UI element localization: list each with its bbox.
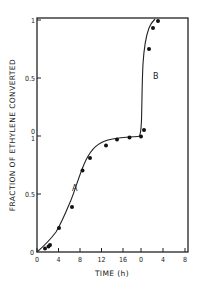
x-tick-label: 16 bbox=[119, 256, 127, 264]
x-tick-label: 8 bbox=[78, 256, 82, 264]
data-point bbox=[104, 144, 108, 148]
y-tick-label: 1 bbox=[31, 135, 35, 143]
data-point bbox=[81, 169, 85, 173]
y-tick-labels: 0 0.5 0 1 0.5 1 bbox=[25, 17, 35, 257]
y-tick-label: 1 bbox=[31, 17, 35, 25]
data-point bbox=[48, 243, 52, 247]
data-point bbox=[128, 136, 132, 140]
x-tick-label: 4 bbox=[161, 256, 165, 264]
data-point bbox=[70, 205, 74, 209]
x-tick-label: 8 bbox=[183, 256, 187, 264]
y-tick-label: 0 bbox=[30, 249, 34, 257]
data-point bbox=[142, 128, 146, 132]
y-tick-label: 0.5 bbox=[25, 75, 35, 83]
y-tick-label: 0.5 bbox=[25, 191, 35, 199]
curve-label-a: A bbox=[72, 184, 78, 193]
x-tick-label: 12 bbox=[97, 256, 105, 264]
series-a-points bbox=[43, 135, 143, 251]
data-point bbox=[151, 26, 155, 30]
curve-label-b: B bbox=[153, 72, 159, 81]
data-point bbox=[43, 247, 47, 251]
data-point bbox=[88, 156, 92, 160]
data-point bbox=[115, 138, 119, 142]
data-point bbox=[147, 47, 151, 51]
data-point bbox=[57, 226, 61, 230]
chart-canvas: 0 4 8 12 16 0 4 8 0 0.5 0 1 0.5 1 TIME (… bbox=[0, 0, 198, 292]
x-tick-label: 0 bbox=[35, 256, 39, 264]
x-tick-label: 0 bbox=[139, 256, 143, 264]
plot-frame bbox=[37, 18, 188, 252]
curve-a bbox=[37, 137, 138, 253]
x-axis-title: TIME (h) bbox=[94, 269, 129, 278]
data-point bbox=[139, 135, 143, 139]
x-tick-label: 4 bbox=[56, 256, 60, 264]
data-point bbox=[156, 19, 160, 23]
y-axis-title: FRACTION OF ETHYLENE CONVERTED bbox=[8, 59, 17, 211]
x-tick-labels: 0 4 8 12 16 0 4 8 bbox=[35, 256, 187, 264]
